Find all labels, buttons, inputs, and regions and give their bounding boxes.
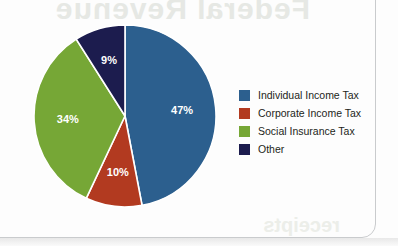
pie-graphic: 47%10%34%9% [33,24,217,208]
figure-page: Federal Revenue receipts 47%10%34%9% Ind… [0,0,398,246]
pie-slice-value-label: 9% [101,54,117,66]
pie-slice-value-label: 34% [57,113,79,125]
legend-item-corporate-income-tax: Corporate Income Tax [239,104,389,122]
pie-svg: 47%10%34%9% [33,24,217,208]
pie-chart: 47%10%34%9% Individual Income Tax Corpor… [0,0,398,246]
legend-label-social-insurance-tax: Social Insurance Tax [258,126,355,137]
legend-item-social-insurance-tax: Social Insurance Tax [239,122,389,140]
chart-legend: Individual Income Tax Corporate Income T… [239,86,389,158]
pie-slice-value-label: 47% [171,104,193,116]
pie-slice-value-label: 10% [107,166,129,178]
legend-swatch-social-insurance-tax [239,126,250,137]
legend-swatch-individual-income-tax [239,90,250,101]
legend-swatch-other [239,144,250,155]
scan-edge-strip [0,238,398,246]
legend-item-other: Other [239,140,389,158]
legend-label-corporate-income-tax: Corporate Income Tax [258,108,361,119]
legend-swatch-corporate-income-tax [239,108,250,119]
legend-item-individual-income-tax: Individual Income Tax [239,86,389,104]
legend-label-other: Other [258,144,284,155]
legend-label-individual-income-tax: Individual Income Tax [258,90,359,101]
